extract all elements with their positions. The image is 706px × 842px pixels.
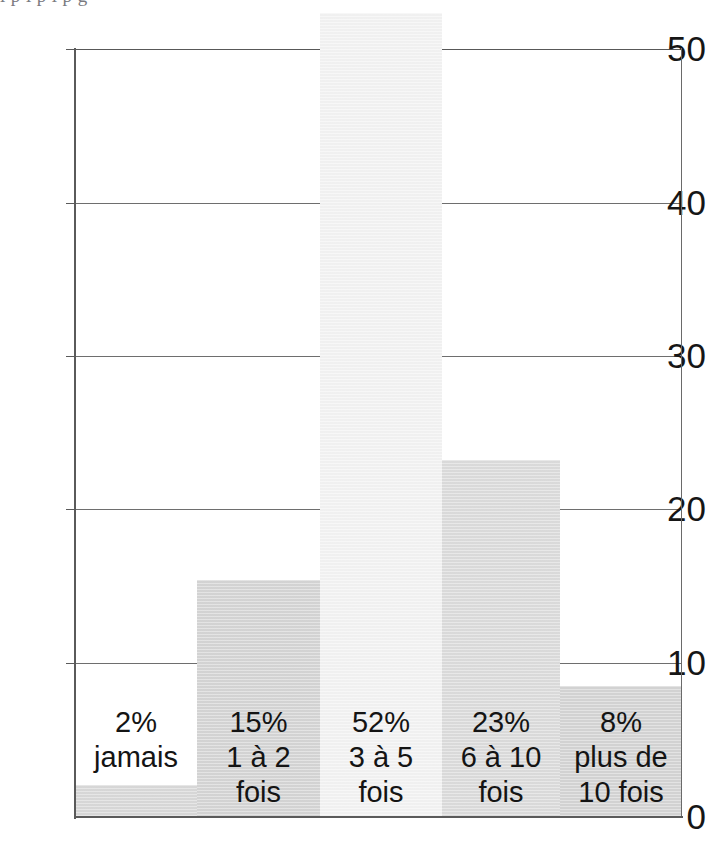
bar-3-a-5-fois[interactable] xyxy=(320,13,442,817)
bar-chart: 50 40 30 20 10 0 2% jamais 15% 1 à 2 foi… xyxy=(0,0,706,842)
bar-label-6-a-10-fois: 23% 6 à 10 fois xyxy=(442,705,560,810)
bar-label-1-a-2-fois: 15% 1 à 2 fois xyxy=(197,705,320,810)
plot-area: 2% jamais 15% 1 à 2 fois 52% 3 à 5 fois … xyxy=(75,13,682,817)
bar-label-3-a-5-fois: 52% 3 à 5 fois xyxy=(320,705,442,810)
bar-jamais[interactable] xyxy=(75,785,197,817)
x-axis-line xyxy=(74,816,683,818)
plot-right-border xyxy=(681,48,682,818)
bar-scan-texture-1 xyxy=(75,785,197,817)
bar-scan-texture-3 xyxy=(320,13,442,817)
bar-label-jamais: 2% jamais xyxy=(75,705,197,775)
bar-label-plus-de-10-fois: 8% plus de 10 fois xyxy=(560,705,682,810)
y-axis-line xyxy=(74,48,76,819)
